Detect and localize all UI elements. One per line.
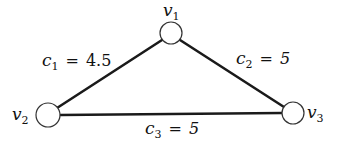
node-v2	[36, 103, 60, 127]
node-label-v3: v3	[307, 102, 324, 125]
triangle-graph-diagram: v1 v2 v3 c1=4.5 c2=5 c3=5	[0, 0, 338, 147]
node-v1	[160, 22, 182, 44]
edge-v2-v3	[60, 113, 282, 115]
node-label-v2: v2	[12, 104, 29, 127]
node-label-v1: v1	[163, 0, 180, 23]
edge-label-c2: c2=5	[236, 48, 290, 71]
node-v3	[282, 102, 304, 124]
edge-label-c3: c3=5	[145, 118, 199, 141]
edge-label-c1: c1=4.5	[42, 50, 111, 73]
